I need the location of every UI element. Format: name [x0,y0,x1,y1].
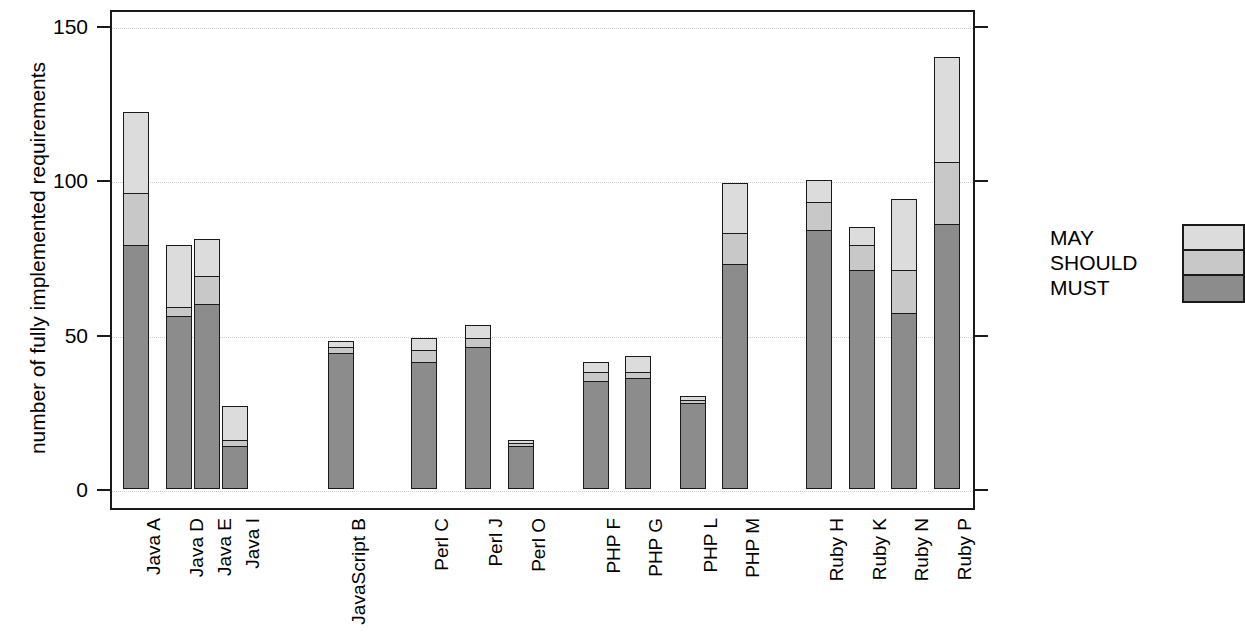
x-axis-label-javascript-b: JavaScript B [348,518,370,638]
chart-canvas: number of fully implemented requirements… [0,0,1245,640]
x-axis-label-php-m: PHP M [742,518,764,638]
x-axis-label-ruby-k: Ruby K [869,518,891,638]
x-axis-label-php-f: PHP F [603,518,625,638]
legend-swatch-should [1184,251,1243,276]
legend-label-list: MAY SHOULD MUST [1050,225,1138,300]
x-axis-label-php-l: PHP L [700,518,722,638]
legend-label-may: MAY [1050,225,1138,250]
legend-swatch-may [1184,226,1243,251]
legend-label-must: MUST [1050,275,1138,300]
x-axis-label-perl-c: Perl C [431,518,453,638]
legend-swatch-stack [1182,224,1245,303]
x-axis-label-java-d: Java D [186,518,208,638]
x-axis-labels: Java AJava DJava EJava IJavaScript BPerl… [0,0,1245,640]
x-axis-label-java-i: Java I [242,518,264,638]
x-axis-label-java-e: Java E [214,518,236,638]
x-axis-label-perl-j: Perl J [485,518,507,638]
x-axis-label-php-g: PHP G [645,518,667,638]
x-axis-label-ruby-p: Ruby P [954,518,976,638]
legend-swatch-must [1184,276,1243,301]
x-axis-label-perl-o: Perl O [528,518,550,638]
x-axis-label-ruby-n: Ruby N [911,518,933,638]
legend-label-should: SHOULD [1050,250,1138,275]
x-axis-label-java-a: Java A [143,518,165,638]
x-axis-label-ruby-h: Ruby H [826,518,848,638]
